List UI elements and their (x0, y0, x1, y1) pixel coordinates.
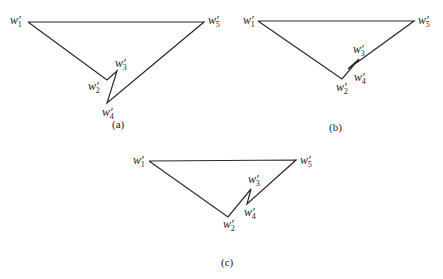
polygon-outline (258, 21, 414, 79)
vertex-label-w5: w′5 (208, 13, 220, 29)
panel-b: w′1w′5w′3w′4w′2(b) (243, 13, 430, 134)
vertex-label-w5: w′5 (418, 13, 430, 29)
panel-c: w′1w′5w′3w′4w′2(c) (133, 153, 312, 269)
panel-caption: (a) (112, 118, 125, 131)
polygon-outline (149, 160, 296, 217)
panel-caption: (c) (221, 256, 234, 269)
vertex-label-w1: w′1 (133, 153, 145, 169)
vertex-label-w2: w′2 (336, 80, 348, 96)
vertex-label-w1: w′1 (10, 13, 22, 29)
vertex-label-w4: w′4 (244, 205, 256, 221)
vertex-label-w2: w′2 (223, 217, 235, 233)
panel-a: w′1w′5w′3w′2w′4(a) (10, 13, 220, 131)
vertex-label-w3: w′3 (115, 56, 127, 72)
vertex-label-w4: w′4 (354, 70, 366, 86)
vertex-label-w3: w′3 (248, 172, 260, 188)
vertex-label-w1: w′1 (243, 13, 255, 29)
vertex-label-w2: w′2 (88, 79, 100, 95)
vertex-label-w3: w′3 (353, 42, 365, 58)
panel-caption: (b) (329, 121, 342, 134)
polygon-figure: w′1w′5w′3w′2w′4(a)w′1w′5w′3w′4w′2(b)w′1w… (0, 0, 443, 279)
vertex-label-w5: w′5 (300, 153, 312, 169)
